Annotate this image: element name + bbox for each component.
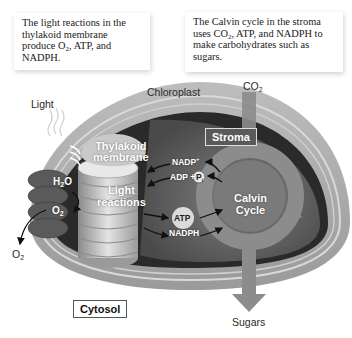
cytosol-label: Cytosol: [73, 300, 127, 318]
chloroplast-diagram: [0, 0, 352, 338]
o2-inner-label: O2: [52, 205, 64, 216]
o2-outer-label: O2: [12, 248, 24, 260]
thylakoid-membrane-label: Thylakoid membrane: [93, 141, 149, 163]
atp-label: ATP: [174, 213, 190, 223]
light-label: Light: [31, 98, 54, 110]
phosphate-label: Pi: [196, 172, 203, 182]
light-reactions-label: Light reactions: [97, 184, 146, 208]
adp-plus-label: ADP +: [170, 172, 195, 182]
nadph-label: NADPH: [169, 228, 199, 238]
nadp-plus-label: NADP+: [172, 156, 200, 167]
chloroplast-label: Chloroplast: [147, 86, 200, 98]
h2o-label: H2O: [53, 176, 72, 187]
stroma-label: Stroma: [205, 128, 257, 146]
light-rays: [48, 108, 64, 136]
co2-label: CO2: [243, 80, 263, 92]
sugars-label: Sugars: [232, 316, 265, 328]
calvin-cycle-label: Calvin Cycle: [234, 192, 267, 216]
